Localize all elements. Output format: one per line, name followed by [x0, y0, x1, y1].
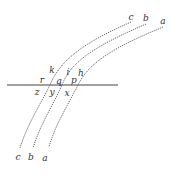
label-r: r — [40, 76, 44, 85]
diagram-canvas — [0, 0, 179, 176]
label-top-b: b — [143, 14, 149, 23]
label-bottom-b: b — [28, 153, 34, 162]
label-z: z — [35, 88, 40, 97]
label-k: k — [49, 66, 54, 75]
label-y: y — [49, 88, 54, 97]
label-p: p — [71, 76, 77, 85]
label-bottom-a: a — [42, 154, 47, 163]
label-x: x — [64, 89, 69, 98]
label-h: h — [78, 69, 84, 78]
label-i: i — [67, 68, 70, 77]
label-top-a: a — [160, 17, 165, 26]
refraction-diagram: c b a k i h r q p z y x c b a — [0, 0, 179, 176]
label-q: q — [56, 77, 62, 86]
label-bottom-c: c — [15, 153, 20, 162]
label-top-c: c — [128, 13, 133, 22]
